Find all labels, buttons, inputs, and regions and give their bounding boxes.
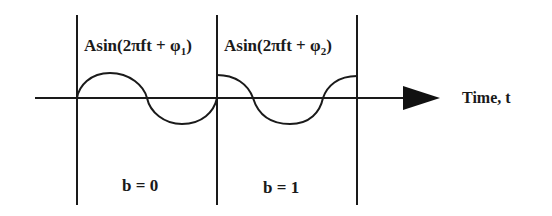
bit-label-0: b = 0 <box>122 176 158 196</box>
time-axis-arrowhead-icon <box>403 86 440 110</box>
signal-formula-bit-1: Asin(2πft + φ2) <box>224 36 332 57</box>
bit-label-1: b = 1 <box>263 178 299 198</box>
time-axis-label: Time, t <box>462 89 511 107</box>
signal-formula-bit-0: Asin(2πft + φ1) <box>84 36 192 57</box>
bpsk-diagram: Asin(2πft + φ1) Asin(2πft + φ2) b = 0 b … <box>0 0 552 216</box>
waveform-bit-1 <box>217 75 357 124</box>
